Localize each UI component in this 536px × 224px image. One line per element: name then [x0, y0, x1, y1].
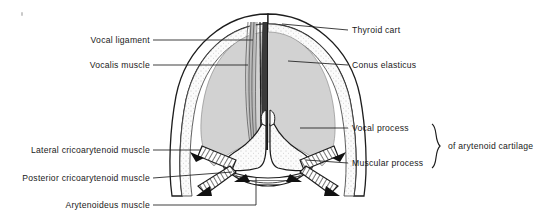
label-conus-elasticus[interactable]: Conus elasticus: [352, 60, 416, 70]
figure-canvas: Vocal ligament Vocalis muscle Lateral cr…: [0, 0, 536, 224]
label-posterior-cricoarytenoid-muscle[interactable]: Posterior cricoarytenoid muscle: [22, 173, 150, 183]
label-arytenoideus-muscle[interactable]: Arytenoideus muscle: [65, 200, 150, 210]
label-vocal-process[interactable]: Vocal process: [352, 123, 409, 133]
arytenoideus-muscle-shape: [226, 170, 310, 186]
label-thyroid-cartilage[interactable]: Thyroid cart: [352, 25, 400, 35]
label-vocal-ligament[interactable]: Vocal ligament: [91, 35, 150, 45]
larynx-diagram: [0, 0, 536, 224]
label-vocalis-muscle[interactable]: Vocalis muscle: [90, 60, 150, 70]
arytenoid-cartilage-brace-shape: [432, 124, 440, 168]
label-lateral-cricoarytenoid-muscle[interactable]: Lateral cricoarytenoid muscle: [31, 145, 150, 155]
label-muscular-process[interactable]: Muscular process: [352, 158, 423, 168]
label-of-arytenoid-cartilage[interactable]: of arytenoid cartilage: [448, 141, 533, 151]
